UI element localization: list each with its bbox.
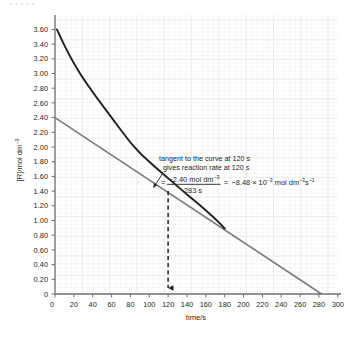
x-tick-label: 140 <box>181 300 193 309</box>
annotation-line-1: tangent to the curve at 120 s <box>159 154 251 163</box>
x-tick-label: 300 <box>332 300 344 309</box>
equation-result-equals: = <box>224 178 228 187</box>
y-tick-label: 1.00 <box>34 216 48 225</box>
x-axis-tick-labels: 0 20 40 60 80 100 120 140 160 180 200 22… <box>50 300 344 309</box>
x-tick-label: 280 <box>313 300 325 309</box>
y-tick-label: 3.60 <box>34 25 48 34</box>
kinetics-chart-figure: ▫ ▫ ▫ ▫ ▫ <box>0 0 349 340</box>
y-tick-label: 3.40 <box>34 40 48 49</box>
y-tick-label: 3.00 <box>34 69 48 78</box>
x-tick-label: 120 <box>162 300 174 309</box>
clipped-caption-above: ▫ ▫ ▫ ▫ ▫ <box>10 0 35 5</box>
y-tick-label: 2.80 <box>34 84 48 93</box>
equation-equals-sign: = <box>161 178 165 187</box>
y-tick-label: 1.60 <box>34 172 48 181</box>
x-axis-title: time/s <box>186 313 206 322</box>
x-tick-label: 0 <box>50 300 54 309</box>
y-axis-title: [R]/mol dm−3 <box>14 139 24 182</box>
y-tick-label: 2.20 <box>34 128 48 137</box>
x-tick-label: 220 <box>256 300 268 309</box>
x-tick-label: 180 <box>219 300 231 309</box>
y-tick-label: 1.80 <box>34 157 48 166</box>
x-tick-label: 80 <box>126 300 134 309</box>
concentration-vs-time-plot: 0 0.20 0.40 0.60 0.80 1.00 1.20 1.40 1.6… <box>0 0 349 340</box>
y-tick-label: 0 <box>44 290 48 299</box>
x-tick-label: 100 <box>143 300 155 309</box>
y-tick-label: 1.40 <box>34 187 48 196</box>
x-tick-label: 240 <box>275 300 287 309</box>
x-axis: 0 20 40 60 80 100 120 140 160 180 200 22… <box>50 294 344 322</box>
x-tick-label: 260 <box>294 300 306 309</box>
y-tick-label: 0.80 <box>34 231 48 240</box>
y-axis-tick-labels: 0 0.20 0.40 0.60 0.80 1.00 1.20 1.40 1.6… <box>34 25 48 299</box>
annotation-line-2: gives reaction rate at 120 s <box>163 163 250 172</box>
y-tick-label: 0.60 <box>34 246 48 255</box>
y-tick-label: 1.20 <box>34 201 48 210</box>
x-tick-label: 40 <box>89 300 97 309</box>
y-tick-label: 2.60 <box>34 99 48 108</box>
x-tick-label: 160 <box>200 300 212 309</box>
equation-numerator: −2.40 mol dm−3 <box>169 174 220 184</box>
x-tick-label: 60 <box>107 300 115 309</box>
y-tick-label: 0.40 <box>34 260 48 269</box>
y-tick-label: 0.20 <box>34 275 48 284</box>
y-tick-label: 3.20 <box>34 54 48 63</box>
x-tick-label: 20 <box>70 300 78 309</box>
y-axis: 0 0.20 0.40 0.60 0.80 1.00 1.20 1.40 1.6… <box>14 15 55 299</box>
equation-denominator: 283 s <box>184 186 202 195</box>
x-tick-label: 200 <box>237 300 249 309</box>
y-tick-label: 2.00 <box>34 143 48 152</box>
y-tick-label: 2.40 <box>34 113 48 122</box>
